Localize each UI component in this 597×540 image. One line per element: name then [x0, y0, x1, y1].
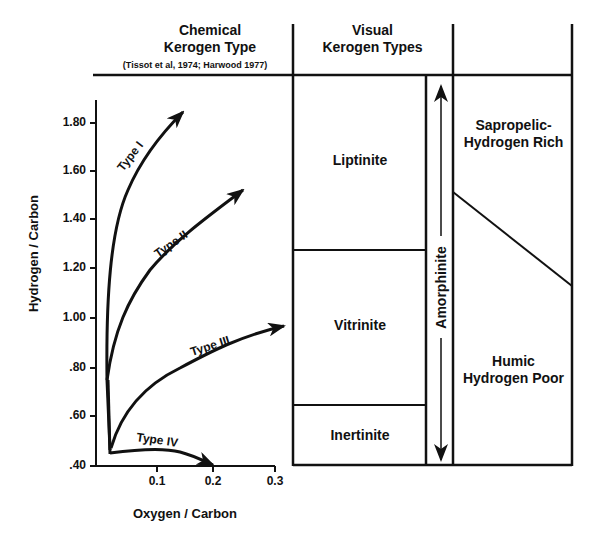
- x-tick-0-3: 0.3: [260, 474, 290, 488]
- chart-axes: [90, 100, 275, 472]
- type-ii-label: Type II: [152, 228, 190, 261]
- kerogen-diagram: Type I Type II Type III Type IV Chemical…: [0, 0, 597, 540]
- type-iii-label: Type III: [189, 333, 232, 359]
- type-ii-curve: [107, 190, 243, 380]
- visual-title: Visual Kerogen Types: [295, 22, 450, 56]
- x-tick-0-1: 0.1: [142, 474, 172, 488]
- citation: (Tissot et al, 1974; Harwood 1977): [100, 60, 290, 70]
- diagram-lines: Type I Type II Type III Type IV: [0, 0, 597, 540]
- origin-stem: [108, 380, 110, 454]
- chemical-title: Chemical Kerogen Type: [140, 22, 280, 56]
- x-tick-0-2: 0.2: [198, 474, 228, 488]
- type-iv-curve: [110, 449, 213, 465]
- hydrogen-rich-label: Sapropelic- Hydrogen Rich: [455, 117, 572, 151]
- hydrogen-poor-label: Humic Hydrogen Poor: [455, 353, 572, 387]
- type-i-label: Type I: [114, 139, 146, 174]
- y-axis-title: Hydrogen / Carbon: [26, 179, 41, 329]
- vitrinite-label: Vitrinite: [295, 317, 425, 334]
- amorphinite-label: Amorphinite: [433, 238, 450, 338]
- x-axis-title: Oxygen / Carbon: [110, 506, 260, 521]
- type-iv-label: Type IV: [136, 430, 179, 450]
- liptinite-label: Liptinite: [295, 152, 425, 169]
- inertinite-label: Inertinite: [295, 427, 425, 444]
